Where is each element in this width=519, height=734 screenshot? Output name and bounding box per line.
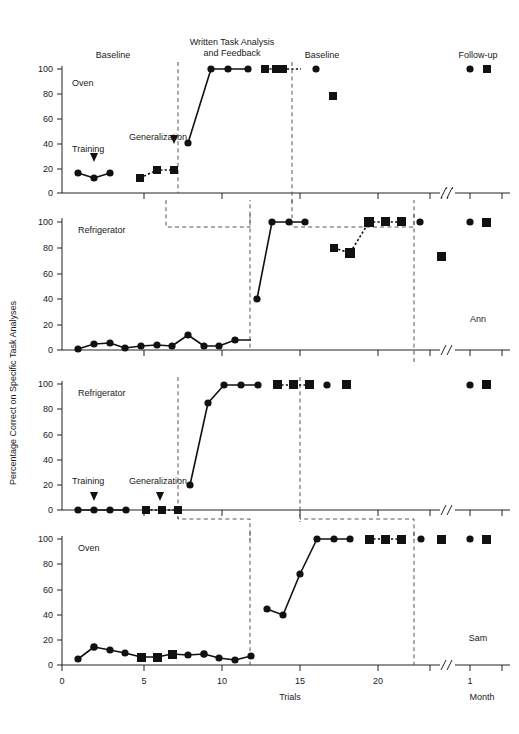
data-point — [482, 218, 491, 227]
panel-4-subject-label: Sam — [469, 633, 488, 643]
data-point — [365, 535, 374, 544]
panel-1: Baseline Written Task Analysis and Feedb… — [38, 37, 510, 205]
data-point — [184, 651, 191, 658]
data-point — [168, 650, 177, 659]
generalization-arrow-icon — [156, 492, 164, 501]
data-point — [184, 139, 191, 146]
panel-4-xtick-20: 20 — [373, 676, 383, 686]
data-point — [174, 506, 182, 514]
figure-svg: Percentage Correct on Specific Task Anal… — [0, 0, 519, 734]
panel-1-ytick-0: 0 — [48, 188, 53, 198]
data-point — [121, 344, 128, 351]
data-point — [289, 380, 298, 389]
data-point — [279, 611, 286, 618]
panel-3-ytick-40: 40 — [43, 455, 53, 465]
panel-3-ytick-80: 80 — [43, 404, 53, 414]
panel-1-axes: 100 80 60 40 20 0 — [38, 64, 510, 199]
panel-1-ytick-40: 40 — [43, 139, 53, 149]
phase-label-baseline2: Baseline — [305, 50, 340, 60]
data-point — [137, 342, 144, 349]
panel-2: Refrigerator Ann 100 80 60 40 20 0 — [38, 214, 510, 362]
data-point — [285, 218, 292, 225]
data-point — [253, 295, 260, 302]
panel-1-2-connector-left — [166, 200, 250, 227]
panel-1-ytick-100: 100 — [38, 64, 53, 74]
data-point — [312, 65, 319, 72]
panel-4-ytick-40: 40 — [43, 610, 53, 620]
data-point — [330, 535, 337, 542]
data-point — [381, 217, 390, 226]
data-point — [90, 643, 98, 651]
x-axis-title-right: Month — [469, 692, 494, 702]
data-point — [207, 65, 214, 72]
x-axis-title: Trials — [279, 692, 301, 702]
panel-2-ytick-80: 80 — [43, 243, 53, 253]
data-point — [466, 65, 473, 72]
panel-3: Refrigerator Training Generalization 100… — [38, 377, 510, 522]
panel-4-axes: 100 80 60 40 20 0 0 5 10 15 20 1 Trials … — [38, 534, 510, 702]
panel-2-ytick-60: 60 — [43, 269, 53, 279]
data-point — [268, 218, 275, 225]
phase-label-intervention-line1: Written Task Analysis — [190, 37, 275, 47]
data-point — [482, 535, 491, 544]
panel-4-xtick-5: 5 — [141, 676, 146, 686]
data-point — [106, 339, 113, 346]
phase-label-baseline: Baseline — [96, 50, 131, 60]
data-point — [231, 656, 238, 663]
y-axis-title: Percentage Correct on Specific Task Anal… — [8, 301, 18, 485]
data-point — [278, 65, 286, 73]
panel-2-task-label: Refrigerator — [78, 225, 126, 235]
data-point — [168, 342, 175, 349]
data-point — [122, 506, 129, 513]
data-point — [323, 381, 330, 388]
panel-3-ytick-0: 0 — [48, 505, 53, 515]
data-point — [137, 653, 146, 662]
data-point — [142, 506, 150, 514]
data-point — [364, 217, 374, 227]
panel-2-subject-label: Ann — [470, 314, 486, 324]
panel-1-ytick-20: 20 — [43, 164, 53, 174]
data-point — [106, 506, 113, 513]
panel-2-line-baseline — [78, 335, 251, 349]
panel-2-ytick-20: 20 — [43, 320, 53, 330]
panel-3-4-connector-left — [178, 516, 250, 540]
data-point — [170, 166, 178, 174]
data-point — [261, 65, 269, 73]
data-point — [106, 646, 113, 653]
data-point — [153, 341, 160, 348]
data-point — [417, 535, 424, 542]
panel-1-2-connector-right — [292, 200, 414, 227]
data-point — [330, 244, 338, 252]
panel-4-line-baseline — [78, 647, 251, 660]
data-point — [90, 174, 97, 181]
data-point — [158, 506, 166, 514]
data-point — [466, 218, 473, 225]
data-point — [244, 65, 251, 72]
training-arrow-icon — [90, 492, 98, 501]
data-point — [153, 166, 161, 174]
panel-3-ytick-20: 20 — [43, 480, 53, 490]
data-point — [329, 92, 337, 100]
data-point — [345, 248, 355, 258]
data-point — [74, 655, 81, 662]
panel-3-ytick-60: 60 — [43, 430, 53, 440]
data-point — [437, 535, 446, 544]
panel-4-ytick-0: 0 — [48, 660, 53, 670]
data-point — [397, 535, 406, 544]
data-point — [200, 342, 207, 349]
panel-1-ytick-80: 80 — [43, 89, 53, 99]
data-point — [74, 169, 81, 176]
data-point — [224, 65, 231, 72]
data-point — [437, 252, 446, 261]
panel-4-xtick-15: 15 — [295, 676, 305, 686]
data-point — [416, 218, 423, 225]
data-point — [273, 380, 282, 389]
phase-label-intervention-line2: and Feedback — [203, 48, 261, 58]
training-arrow-icon — [90, 153, 98, 162]
panel-4-line-intervention-training — [267, 539, 350, 615]
panel-2-line-intervention-training — [257, 222, 305, 299]
data-point — [220, 381, 227, 388]
panel-1-ytick-60: 60 — [43, 114, 53, 124]
panel-1-line-intervention-training — [188, 69, 248, 143]
panel-4-ytick-20: 20 — [43, 635, 53, 645]
